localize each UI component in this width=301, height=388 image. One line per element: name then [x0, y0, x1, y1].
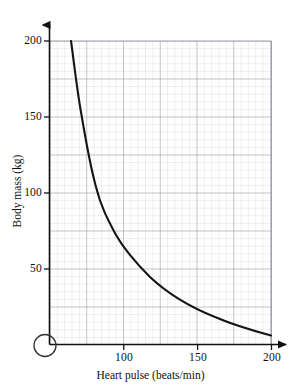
x-tick-label-200: 200: [252, 351, 292, 363]
x-axis-title: Heart pulse (beats/min): [0, 369, 301, 381]
chart-figure: 200 150 100 50 100 150 200 Heart pulse (…: [0, 0, 301, 388]
major-gridlines: [50, 41, 272, 345]
y-tick-label-150: 150: [10, 110, 42, 122]
chart-canvas: [0, 0, 301, 388]
y-tick-label-200: 200: [10, 34, 42, 46]
y-tick-label-50: 50: [10, 262, 42, 274]
grid-panel: [50, 41, 272, 345]
x-tick-label-150: 150: [178, 351, 218, 363]
y-axis-title: Body mass (kg): [11, 131, 23, 251]
x-tick-label-100: 100: [104, 351, 144, 363]
origin-circle-marker: [34, 335, 56, 357]
